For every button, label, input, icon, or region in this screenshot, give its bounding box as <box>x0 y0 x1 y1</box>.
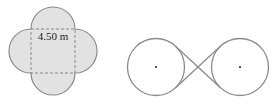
crossed-belt-figure <box>128 39 269 96</box>
diagram-canvas: 4.50 m <box>0 0 274 105</box>
left-center-dot <box>155 66 157 68</box>
quatrefoil-figure: 4.50 m <box>9 7 97 95</box>
dimension-label: 4.50 m <box>38 30 69 42</box>
right-center-dot <box>239 66 241 68</box>
quatrefoil-outline <box>9 7 97 95</box>
